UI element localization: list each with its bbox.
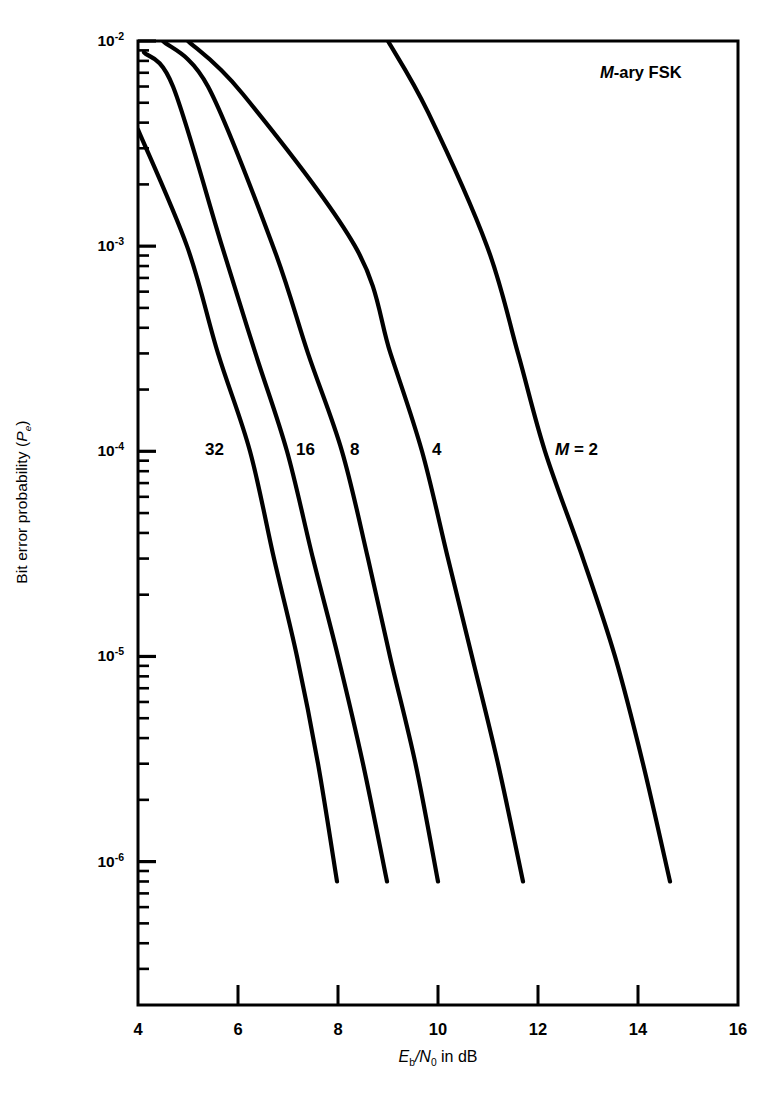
annotation-symbol-m: M — [600, 63, 614, 81]
y-tick-mantissa: 10 — [97, 32, 114, 49]
y-axis-label-subscript: e — [22, 426, 33, 432]
curve-label-symbol-m: M — [555, 440, 569, 459]
curve-4 — [188, 41, 523, 881]
y-tick-mantissa: 10 — [97, 237, 114, 254]
curve-label-8: 8 — [350, 440, 359, 460]
figure-mary-fsk-ber-chart: Bit error probability (Pe) Eb/N0 in dB M… — [0, 0, 775, 1093]
x-axis-label-suffix: in dB — [437, 1048, 478, 1065]
x-tick-label: 10 — [418, 1020, 458, 1039]
y-tick-label: 10-6 — [44, 851, 124, 871]
x-tick-label: 14 — [618, 1020, 658, 1039]
curve-label-32: 32 — [205, 440, 224, 460]
data-curves — [138, 41, 670, 881]
curve-label-m-2: M = 2 — [555, 440, 598, 460]
y-axis-label-prefix: Bit error probability ( — [13, 442, 30, 584]
x-axis-label-mid: /N — [415, 1048, 431, 1065]
curve-16 — [144, 52, 387, 881]
x-tick-label: 12 — [518, 1020, 558, 1039]
y-tick-mantissa: 10 — [97, 648, 114, 665]
x-tick-label: 16 — [718, 1020, 758, 1039]
x-axis-label-prefix: E — [399, 1048, 410, 1065]
y-axis-label: Bit error probability (Pe) — [0, 0, 46, 1005]
curve-label-4: 4 — [432, 440, 441, 460]
y-tick-mantissa: 10 — [97, 853, 114, 870]
y-tick-exponent: -5 — [115, 645, 124, 657]
curves-clipped — [138, 41, 670, 881]
y-tick-label: 10-5 — [44, 645, 124, 665]
y-axis-label-symbol: P — [13, 432, 30, 442]
y-axis-tick-marks — [138, 41, 156, 969]
y-tick-exponent: -3 — [115, 235, 124, 247]
y-axis-label-text: Bit error probability (Pe) — [13, 421, 33, 584]
x-tick-label: 6 — [218, 1020, 258, 1039]
y-axis-label-suffix: ) — [13, 421, 30, 426]
curve-32 — [138, 130, 337, 882]
x-axis-label: Eb/N0 in dB — [138, 1048, 738, 1068]
chart-canvas — [0, 0, 775, 1093]
y-tick-exponent: -6 — [115, 851, 124, 863]
y-tick-exponent: -4 — [115, 440, 124, 452]
curve-m-2 — [388, 41, 670, 881]
curve-label-16: 16 — [296, 440, 315, 460]
curve-label-value: = 2 — [569, 440, 598, 459]
y-tick-label: 10-4 — [44, 440, 124, 460]
x-tick-label: 8 — [318, 1020, 358, 1039]
x-tick-label: 4 — [118, 1020, 158, 1039]
annotation-text: -ary FSK — [614, 63, 682, 81]
x-axis-tick-marks — [238, 985, 638, 1005]
y-tick-label: 10-2 — [44, 30, 124, 50]
chart-annotation-modulation: M-ary FSK — [600, 63, 682, 82]
y-tick-exponent: -2 — [115, 30, 124, 42]
y-tick-mantissa: 10 — [97, 442, 114, 459]
y-tick-label: 10-3 — [44, 235, 124, 255]
